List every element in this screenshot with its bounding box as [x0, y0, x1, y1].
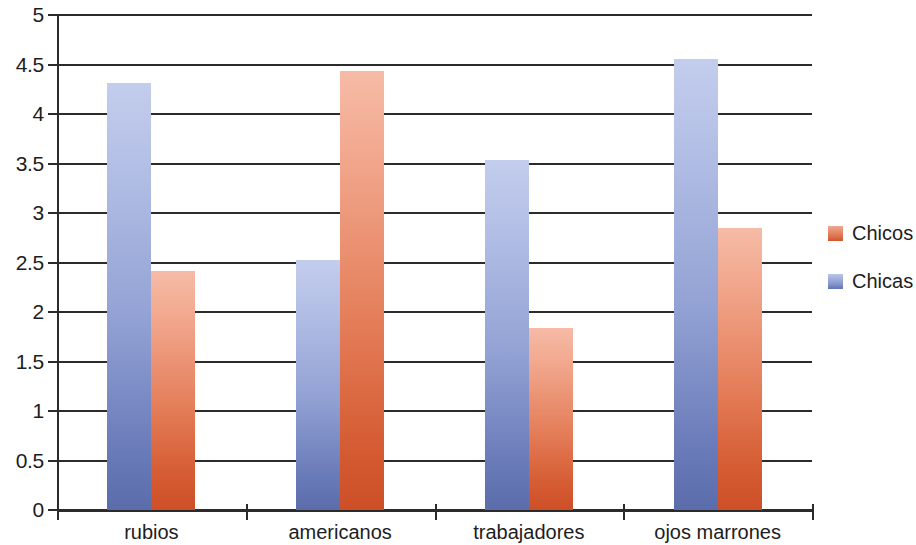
y-axis-tick-label: 3.5 [0, 153, 44, 174]
legend-swatch-icon [828, 274, 843, 289]
bar-chicos-trabajadores [529, 328, 573, 510]
y-axis-tick-label: 5 [0, 4, 44, 25]
x-axis-tick [435, 504, 437, 520]
plot-area [57, 15, 812, 510]
x-axis-category-label: americanos [246, 521, 435, 543]
bar-chicas-americanos [296, 260, 340, 510]
y-axis-tick-label: 0.5 [0, 450, 44, 471]
y-axis-tick-label: 2.5 [0, 252, 44, 273]
y-axis-tick-label: 4.5 [0, 54, 44, 75]
legend-label: Chicos [852, 223, 913, 243]
x-axis-tick [623, 504, 625, 520]
legend-item-chicas: Chicas [828, 269, 916, 293]
x-axis-tick [57, 504, 59, 520]
legend-swatch-icon [828, 226, 843, 241]
bars [57, 15, 812, 510]
bar-chicas-ojos-marrones [674, 59, 718, 510]
y-axis-tick-label: 2 [0, 301, 44, 322]
legend: ChicosChicas [828, 221, 916, 317]
x-axis-category-label: ojos marrones [623, 521, 812, 543]
y-axis-tick-label: 0 [0, 499, 44, 520]
bar-chicas-trabajadores [485, 160, 529, 510]
x-axis-tick [246, 504, 248, 520]
bar-chicas-rubios [107, 83, 151, 510]
x-axis-category-label: trabajadores [435, 521, 624, 543]
y-axis-tick-label: 4 [0, 103, 44, 124]
bar-chart: 00.511.522.533.544.55 rubiosamericanostr… [0, 0, 916, 545]
x-axis-category-label: rubios [57, 521, 246, 543]
legend-label: Chicas [852, 271, 913, 291]
y-axis-tick-label: 1 [0, 400, 44, 421]
legend-item-chicos: Chicos [828, 221, 916, 245]
x-axis-tick [812, 504, 814, 520]
y-axis-tick-label: 3 [0, 202, 44, 223]
y-axis-tick-label: 1.5 [0, 351, 44, 372]
bar-chicos-rubios [151, 271, 195, 510]
bar-chicos-ojos-marrones [718, 228, 762, 510]
bar-chicos-americanos [340, 71, 384, 510]
